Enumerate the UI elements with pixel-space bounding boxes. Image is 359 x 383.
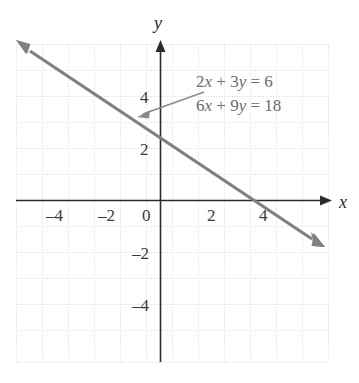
x-axis-label: x (339, 193, 347, 211)
y-tick-label-2: 2 (140, 141, 149, 158)
x-tick-label--4: –4 (46, 207, 63, 224)
y-axis-label: y (154, 14, 162, 32)
coordinate-plane-svg (0, 0, 359, 383)
equation-first: 2x + 3y = 6 (196, 70, 281, 94)
y-tick-label--4: –4 (132, 297, 149, 314)
x-axis (16, 196, 332, 206)
grid-lines (16, 44, 329, 363)
x-tick-label-4: 4 (259, 207, 268, 224)
y-tick-label--2: –2 (132, 245, 149, 262)
x-tick-label--2: –2 (98, 207, 115, 224)
equation-second: 6x + 9y = 18 (196, 94, 281, 118)
graph-figure: y x –4 –2 0 2 4 4 2 –2 –4 2x + 3y = 6 6x… (0, 0, 359, 383)
y-tick-label-4: 4 (140, 89, 149, 106)
equation-annotation-group: 2x + 3y = 6 6x + 9y = 18 (196, 70, 281, 118)
x-tick-label-2: 2 (207, 207, 216, 224)
x-tick-label-0: 0 (142, 207, 151, 224)
